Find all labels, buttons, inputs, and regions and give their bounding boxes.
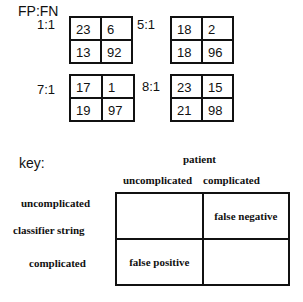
ratio-label: 5:1 <box>137 17 155 32</box>
key-label: key: <box>19 155 45 171</box>
confusion-matrix: 23 6 13 92 <box>69 16 133 64</box>
ratio-label: 1:1 <box>37 17 55 32</box>
key-matrix: false negative false positive <box>115 192 290 286</box>
matrix-cell: 18 <box>172 18 201 39</box>
column-header: patient <box>183 153 216 165</box>
matrix-cell: 13 <box>71 41 100 62</box>
key-cell-false-negative: false negative <box>204 194 289 238</box>
matrix-cell: 17 <box>71 76 101 97</box>
matrix-cell: 23 <box>172 76 201 97</box>
matrix-cell: 6 <box>102 18 131 39</box>
row-label-uncomplicated: uncomplicated <box>21 197 90 209</box>
matrix-cell: 15 <box>203 76 232 97</box>
matrix-cell: 2 <box>203 18 232 39</box>
row-header: classifier string <box>13 224 85 236</box>
key-cell <box>117 194 202 238</box>
matrix-cell: 97 <box>103 99 133 120</box>
key-cell <box>204 240 289 284</box>
ratio-label: 8:1 <box>142 79 160 94</box>
matrix-cell: 21 <box>172 99 201 120</box>
matrix-cell: 18 <box>172 41 201 62</box>
column-label-complicated: complicated <box>203 174 260 186</box>
confusion-matrix: 17 1 19 97 <box>69 74 135 122</box>
confusion-matrix: 18 2 18 96 <box>170 16 234 64</box>
row-label-complicated: complicated <box>29 257 86 269</box>
matrix-cell: 92 <box>102 41 131 62</box>
matrix-cell: 19 <box>71 99 101 120</box>
matrix-cell: 98 <box>203 99 232 120</box>
column-label-uncomplicated: uncomplicated <box>123 174 192 186</box>
matrix-cell: 23 <box>71 18 100 39</box>
matrix-cell: 96 <box>203 41 232 62</box>
key-cell-false-positive: false positive <box>117 240 202 284</box>
matrix-cell: 1 <box>103 76 133 97</box>
ratio-label: 7:1 <box>37 82 55 97</box>
confusion-matrix: 23 15 21 98 <box>170 74 234 122</box>
